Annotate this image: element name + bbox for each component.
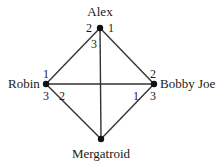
- edge-number-alex-right: 1: [108, 22, 114, 34]
- edge-number-bobby-diag: 1: [133, 90, 139, 102]
- graph-edge: [100, 28, 154, 84]
- graph-vertex-dot: [98, 136, 104, 142]
- edge-number-bobby-above: 2: [150, 68, 156, 80]
- node-label-bobby_joe: Bobby Joe: [160, 77, 215, 90]
- graph-diagram: AlexRobinBobby JoeMergatroid 213132231: [0, 0, 219, 168]
- edge-number-robin-above: 1: [43, 68, 49, 80]
- graph-vertex-dot: [97, 25, 103, 31]
- edge-number-bobby-below: 3: [150, 90, 156, 102]
- node-label-alex: Alex: [87, 5, 112, 18]
- graph-vertex-dot: [151, 81, 157, 87]
- graph-vertex-dot: [43, 81, 49, 87]
- node-label-mergatroid: Mergatroid: [72, 147, 130, 160]
- edge-number-robin-below: 3: [43, 90, 49, 102]
- node-label-robin: Robin: [8, 77, 40, 90]
- edges-group: [46, 28, 154, 139]
- edge-number-alex-left: 2: [86, 22, 92, 34]
- edge-number-alex-below: 3: [91, 38, 97, 50]
- edge-number-robin-diag: 2: [59, 90, 65, 102]
- graph-edge: [101, 84, 154, 139]
- graph-edge: [46, 84, 101, 139]
